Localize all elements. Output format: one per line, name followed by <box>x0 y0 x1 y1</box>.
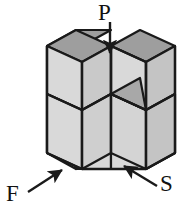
label-p: P <box>98 1 111 24</box>
cube-diagram-figure: P F S <box>0 0 186 214</box>
label-f: F <box>6 182 19 205</box>
arrow-f-line <box>28 170 62 192</box>
label-s: S <box>160 172 173 195</box>
cube-diagram-svg <box>0 0 186 214</box>
